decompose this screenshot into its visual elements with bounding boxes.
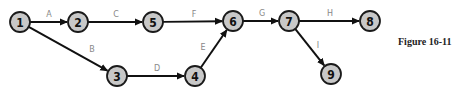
node-label: 7 [285,15,293,29]
edge-7-9 [295,29,324,66]
edge-label-d: D [154,64,160,73]
edge-5-6 [163,21,222,22]
edge-label-a: A [46,10,52,19]
node-9: 9 [321,64,341,84]
node-label: 1 [16,16,24,30]
edge-label-e: E [200,43,205,52]
network-diagram: ACBFDEGHI 125346789 [0,0,464,95]
node-2: 2 [68,12,88,32]
node-label: 3 [113,70,121,84]
node-3: 3 [107,66,127,86]
edge-label-b: B [89,45,95,54]
node-label: 9 [327,68,335,82]
node-label: 5 [149,16,157,30]
node-4: 4 [185,66,205,86]
node-7: 7 [279,11,299,31]
node-8: 8 [360,11,380,31]
node-label: 6 [229,15,237,29]
edge-1-3 [29,27,108,71]
node-label: 8 [366,15,374,29]
node-label: 2 [74,16,82,30]
edge-label-i: I [317,41,319,50]
figure-caption: Figure 16-11 [398,36,451,47]
edge-label-g: G [259,9,265,18]
edge-label-c: C [113,10,119,19]
node-1: 1 [10,12,30,32]
edge-label-f: F [192,10,197,19]
edge-label-h: H [327,9,333,18]
node-5: 5 [143,12,163,32]
node-6: 6 [223,11,243,31]
node-label: 4 [191,70,199,84]
